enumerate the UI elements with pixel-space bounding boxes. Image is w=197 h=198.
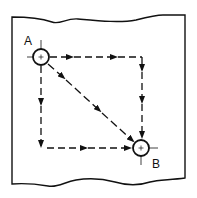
point-b-label: B xyxy=(152,157,160,171)
point-a-label: A xyxy=(24,34,32,48)
path-diagram: A B xyxy=(0,0,197,198)
